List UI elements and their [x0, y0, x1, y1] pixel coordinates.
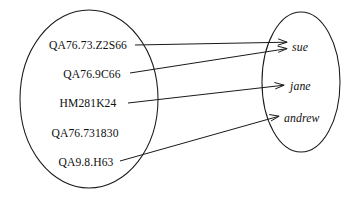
range-item-label: jane [290, 79, 311, 94]
domain-item-label: QA76.73.Z2S66 [49, 39, 127, 52]
range-item-label: sue [292, 40, 308, 55]
arrow-shaft [120, 116, 279, 161]
domain-item-label: HM281K24 [60, 97, 117, 110]
domain-item-label: QA76.731830 [51, 127, 118, 140]
diagram-canvas [0, 0, 354, 198]
arrow-qa98h63-to-andrew [120, 115, 279, 161]
arrow-hm281k24-to-jane [128, 83, 284, 103]
domain-item-label: QA9.8.H63 [58, 156, 113, 169]
arrow-shaft [135, 42, 287, 45]
arrow-qa7673z2s66-to-sue [135, 39, 287, 45]
arrow-shaft [128, 85, 284, 103]
range-item-label: andrew [284, 111, 320, 126]
domain-item-label: QA76.9C66 [63, 68, 120, 81]
mapping-diagram: QA76.73.Z2S66 QA76.9C66 HM281K24 QA76.73… [0, 0, 354, 198]
